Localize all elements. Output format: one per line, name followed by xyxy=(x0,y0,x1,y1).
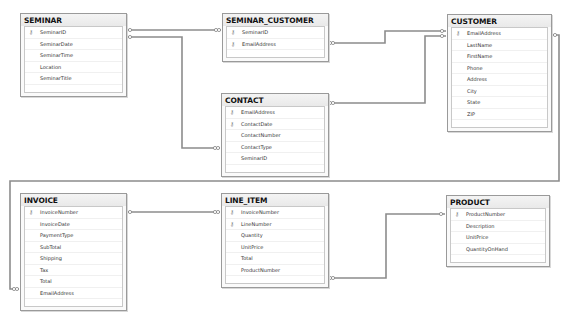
column-list: ⚷EmailAddressLastNameFirstNamePhoneAddre… xyxy=(451,27,548,128)
table-filler xyxy=(451,255,545,262)
column-list: ⚷SeminarIDSeminarDateSeminarTimeLocation… xyxy=(24,26,123,93)
column-name: PaymentType xyxy=(40,232,73,238)
column-row[interactable]: ProductNumber xyxy=(226,265,324,277)
column-row[interactable]: QuantityOnHand xyxy=(451,244,545,256)
column-row[interactable]: ZIP xyxy=(452,109,547,121)
column-list: ⚷ProductNumberDescriptionUnitPriceQuanti… xyxy=(450,208,546,263)
table-title: CONTACT xyxy=(222,94,328,106)
column-row[interactable]: PaymentType xyxy=(25,230,122,242)
column-name: Tax xyxy=(40,267,48,273)
column-name: UnitPrice xyxy=(241,244,263,250)
column-row[interactable]: Quantity xyxy=(226,230,324,242)
column-row[interactable]: ⚷InvoiceNumber xyxy=(226,207,324,219)
table-title: INVOICE xyxy=(21,194,126,206)
column-list: ⚷InvoiceNumberInvoiceDatePaymentTypeSubT… xyxy=(24,206,123,307)
column-row[interactable]: SeminarTime xyxy=(25,50,122,62)
column-row[interactable]: Address xyxy=(452,74,547,86)
infinity-icon xyxy=(214,28,220,31)
column-name: Quantity xyxy=(241,232,263,238)
column-row[interactable]: ContactNumber xyxy=(226,130,324,142)
column-row[interactable]: Total xyxy=(25,276,122,288)
column-row[interactable]: FirstName xyxy=(452,51,547,63)
table-filler xyxy=(452,120,547,127)
column-name: Total xyxy=(241,255,253,261)
column-row[interactable]: ⚷EmailAddress xyxy=(227,39,324,51)
column-name: SeminarTitle xyxy=(40,75,72,81)
infinity-icon xyxy=(213,210,219,213)
column-name: SeminarID xyxy=(241,155,267,161)
column-row[interactable]: Phone xyxy=(452,63,547,75)
column-name: ZIP xyxy=(467,111,475,117)
column-row[interactable]: ⚷ProductNumber xyxy=(451,209,545,221)
column-row[interactable]: ⚷SeminarID xyxy=(25,27,122,39)
table-title: SEMINAR_CUSTOMER xyxy=(223,14,328,26)
table-product[interactable]: PRODUCT⚷ProductNumberDescriptionUnitPric… xyxy=(446,195,550,267)
column-row[interactable]: Description xyxy=(451,221,545,233)
column-row[interactable]: State xyxy=(452,97,547,109)
column-list: ⚷InvoiceNumber⚷LineNumberQuantityUnitPri… xyxy=(225,206,325,284)
column-row[interactable]: SeminarDate xyxy=(25,39,122,51)
column-row[interactable]: ⚷InvoiceNumber xyxy=(25,207,122,219)
column-name: LastName xyxy=(467,42,492,48)
rel-seminar-contact[interactable] xyxy=(126,37,220,148)
column-row[interactable]: Shipping xyxy=(25,253,122,265)
column-name: City xyxy=(467,88,477,94)
column-row[interactable]: InvoiceDate xyxy=(25,219,122,231)
column-row[interactable]: ⚷EmailAddress xyxy=(226,107,324,119)
column-row[interactable]: ⚷ContactDate xyxy=(226,119,324,131)
column-name: EmailAddress xyxy=(242,41,276,47)
column-name: Address xyxy=(467,76,487,82)
key-icon xyxy=(128,35,131,38)
column-name: InvoiceDate xyxy=(40,221,70,227)
table-filler xyxy=(226,165,324,172)
column-row[interactable]: UnitPrice xyxy=(226,242,324,254)
column-name: EmailAddress xyxy=(467,30,501,36)
key-icon: ⚷ xyxy=(29,207,33,218)
column-row[interactable]: ⚷LineNumber xyxy=(226,219,324,231)
table-seminar-customer[interactable]: SEMINAR_CUSTOMER⚷SeminarID⚷EmailAddress xyxy=(222,13,329,62)
column-name: ContactType xyxy=(241,144,272,150)
column-name: SubTotal xyxy=(40,244,61,250)
column-name: LineNumber xyxy=(241,221,272,227)
key-icon: ⚷ xyxy=(230,207,234,218)
rel-product-line-item[interactable] xyxy=(328,214,445,278)
column-row[interactable]: Tax xyxy=(25,265,122,277)
table-customer[interactable]: CUSTOMER⚷EmailAddressLastNameFirstNamePh… xyxy=(447,14,552,132)
column-row[interactable]: UnitPrice xyxy=(451,232,545,244)
infinity-icon xyxy=(328,41,334,44)
key-icon xyxy=(128,28,131,31)
column-row[interactable]: SeminarID xyxy=(226,153,324,165)
column-name: SeminarID xyxy=(242,29,268,35)
table-invoice[interactable]: INVOICE⚷InvoiceNumberInvoiceDatePaymentT… xyxy=(20,193,127,311)
rel-customer-seminar-customer[interactable] xyxy=(328,31,446,43)
infinity-icon xyxy=(328,276,334,279)
key-icon: ⚷ xyxy=(456,28,460,39)
column-list: ⚷EmailAddress⚷ContactDateContactNumberCo… xyxy=(225,106,325,173)
key-icon: ⚷ xyxy=(230,107,234,118)
column-row[interactable]: Total xyxy=(226,253,324,265)
table-title: PRODUCT xyxy=(447,196,549,208)
table-title: SEMINAR xyxy=(21,14,126,26)
column-row[interactable]: Location xyxy=(25,62,122,74)
column-name: EmailAddress xyxy=(241,109,275,115)
table-seminar[interactable]: SEMINAR⚷SeminarIDSeminarDateSeminarTimeL… xyxy=(20,13,127,97)
table-filler xyxy=(25,85,122,92)
column-name: Shipping xyxy=(40,255,62,261)
key-icon xyxy=(553,33,556,36)
column-row[interactable]: EmailAddress xyxy=(25,288,122,300)
key-icon: ⚷ xyxy=(230,219,234,230)
table-contact[interactable]: CONTACT⚷EmailAddress⚷ContactDateContactN… xyxy=(221,93,329,177)
key-icon: ⚷ xyxy=(29,27,33,38)
column-row[interactable]: LastName xyxy=(452,40,547,52)
column-row[interactable]: City xyxy=(452,86,547,98)
column-row[interactable]: SeminarTitle xyxy=(25,73,122,85)
key-icon xyxy=(128,210,131,213)
rel-customer-contact[interactable] xyxy=(328,36,446,103)
table-filler xyxy=(226,276,324,283)
column-row[interactable]: ⚷SeminarID xyxy=(227,27,324,39)
column-row[interactable]: ContactType xyxy=(226,142,324,154)
column-row[interactable]: SubTotal xyxy=(25,242,122,254)
column-name: Total xyxy=(40,278,52,284)
column-row[interactable]: ⚷EmailAddress xyxy=(452,28,547,40)
table-line-item[interactable]: LINE_ITEM⚷InvoiceNumber⚷LineNumberQuanti… xyxy=(221,193,329,288)
